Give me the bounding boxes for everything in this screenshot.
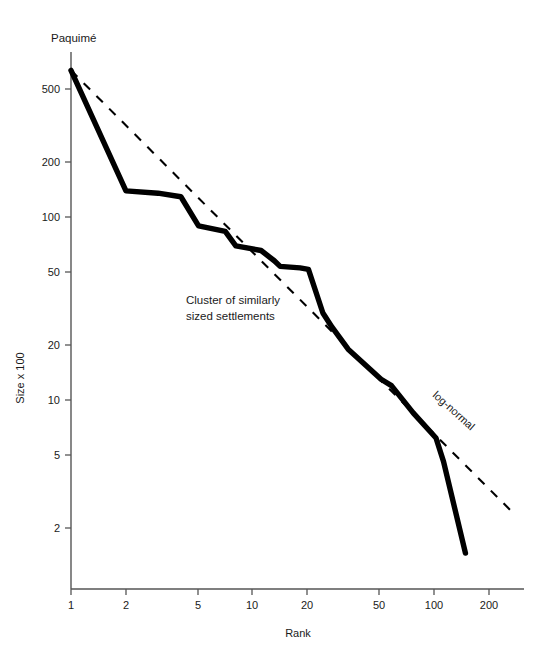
x-tick-label-200: 200 [480,599,498,611]
y-tick-label-20: 20 [48,339,60,351]
x-tick-marks [71,589,489,595]
y-tick-label-50: 50 [48,266,60,278]
rank-size-chart: 500 200 100 50 20 10 5 2 1 2 5 10 20 [0,0,542,661]
x-axis-title: Rank [285,627,311,639]
x-tick-label-10: 10 [246,599,258,611]
y-axis-title: Size x 100 [14,352,26,403]
x-tick-label-2: 2 [123,599,129,611]
paquime-label: Paquimé [51,32,96,44]
x-tick-label-20: 20 [301,599,313,611]
y-tick-label-500: 500 [42,83,60,95]
chart-canvas: 500 200 100 50 20 10 5 2 1 2 5 10 20 [0,0,542,661]
log-normal-label: log-normal [431,389,478,433]
y-tick-marks [65,89,71,528]
cluster-annotation-line-1: Cluster of similarly [186,294,280,306]
x-tick-label-5: 5 [195,599,201,611]
log-normal-reference-line [71,70,512,511]
x-tick-label-100: 100 [425,599,443,611]
y-tick-label-2: 2 [54,522,60,534]
y-tick-labels: 500 200 100 50 20 10 5 2 [42,83,60,534]
y-tick-label-10: 10 [48,394,60,406]
x-tick-labels: 1 2 5 10 20 50 100 200 [68,599,498,611]
y-tick-label-5: 5 [54,449,60,461]
y-tick-label-100: 100 [42,211,60,223]
y-tick-label-200: 200 [42,156,60,168]
cluster-annotation-line-2: sized settlements [186,310,275,322]
x-tick-label-1: 1 [68,599,74,611]
x-tick-label-50: 50 [373,599,385,611]
cluster-annotation: Cluster of similarly sized settlements [186,294,280,322]
